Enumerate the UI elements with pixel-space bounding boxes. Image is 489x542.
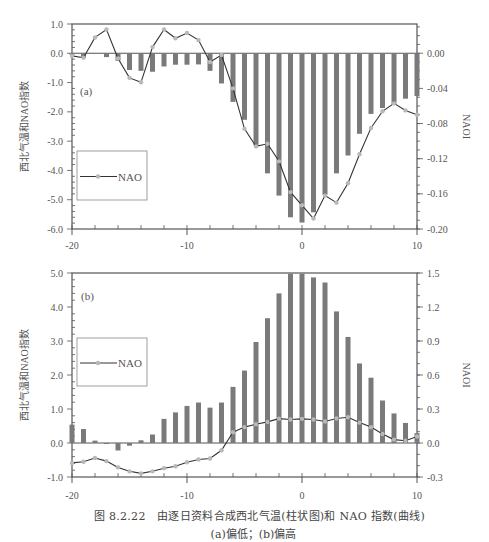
bar [162, 53, 167, 66]
y2-tick-label: 0.3 [427, 404, 440, 415]
x-tick-label: 0 [300, 490, 305, 501]
nao-marker [81, 460, 85, 464]
nao-marker [185, 460, 189, 464]
y2-tick-label: -0.20 [427, 224, 448, 235]
y-tick-label: -3.0 [47, 136, 63, 147]
bar [139, 53, 144, 71]
nao-marker [369, 126, 373, 130]
nao-marker [380, 109, 384, 113]
bar [300, 53, 305, 222]
panel-label: (b) [81, 290, 94, 303]
nao-marker [380, 432, 384, 436]
y2-tick-label: -0.3 [427, 472, 443, 483]
x-tick-label: 0 [300, 240, 305, 251]
panel-b: 5.04.03.02.01.00.0-1.01.51.20.90.60.30.0… [18, 268, 472, 502]
bar [219, 403, 224, 443]
bar [219, 53, 224, 83]
x-tick-label: -20 [65, 490, 78, 501]
nao-marker [323, 419, 327, 423]
y-tick-label: 2.0 [51, 370, 64, 381]
bar [70, 425, 75, 443]
nao-marker [208, 456, 212, 460]
nao-marker [334, 200, 338, 204]
bar [415, 53, 420, 96]
nao-marker [162, 466, 166, 470]
nao-marker [81, 55, 85, 59]
nao-marker [254, 144, 258, 148]
nao-marker [127, 76, 131, 80]
nao-marker [392, 101, 396, 105]
bar [116, 443, 121, 450]
nao-marker [242, 127, 246, 131]
figure-subcaption: (a)偏低；(b)偏高 [0, 525, 489, 541]
nao-marker [219, 53, 223, 57]
nao-marker [415, 434, 419, 438]
bar [380, 53, 385, 108]
bar [380, 401, 385, 444]
bar [357, 53, 362, 134]
bar [93, 53, 98, 54]
bar [323, 53, 328, 194]
y-tick-label: 4.0 [51, 302, 64, 313]
y2-tick-label: -0.08 [427, 118, 448, 129]
y2-tick-label: 1.5 [427, 268, 440, 279]
bar [334, 311, 339, 443]
nao-marker [369, 425, 373, 429]
bar [369, 378, 374, 443]
x-tick-label: -10 [180, 240, 193, 251]
nao-marker [185, 31, 189, 35]
nao-marker [139, 80, 143, 84]
x-tick-label: 10 [412, 490, 422, 501]
nao-marker [415, 113, 419, 117]
bar [127, 53, 132, 70]
nao-marker [173, 36, 177, 40]
bar [254, 342, 259, 443]
y2-tick-label: 0.6 [427, 370, 440, 381]
x-tick-label: -20 [65, 240, 78, 251]
bar [162, 419, 167, 443]
nao-marker [334, 416, 338, 420]
bar [104, 443, 109, 444]
nao-marker [70, 54, 74, 58]
nao-marker [403, 108, 407, 112]
nao-marker [288, 190, 292, 194]
y2-tick-label: 0.0 [427, 438, 440, 449]
y2-tick-label: 0.00 [427, 48, 445, 59]
y2-axis-title: NAOI [461, 363, 472, 388]
y2-tick-label: 1.2 [427, 302, 440, 313]
bar [357, 363, 362, 443]
nao-marker [288, 417, 292, 421]
y-tick-label: 0.0 [51, 48, 64, 59]
y-tick-label: -1.0 [47, 77, 63, 88]
bar [196, 403, 201, 443]
bar [185, 53, 190, 64]
bar [392, 53, 397, 103]
nao-marker [208, 60, 212, 64]
nao-marker [242, 425, 246, 429]
nao-marker [139, 471, 143, 475]
y2-axis-title: NAOI [461, 114, 472, 139]
panel-label: (a) [80, 85, 93, 98]
y2-tick-label: -0.16 [427, 188, 448, 199]
bar [265, 318, 270, 443]
nao-marker [162, 27, 166, 31]
bar [403, 53, 408, 98]
nao-marker [346, 415, 350, 419]
y2-tick-label: -0.12 [427, 153, 448, 164]
nao-marker [116, 56, 120, 60]
nao-marker [300, 417, 304, 421]
panel-a: 1.00.0-1.0-2.0-3.0-4.0-5.0-6.00.00-0.04-… [18, 19, 472, 252]
nao-marker [104, 459, 108, 463]
y-tick-label: -1.0 [47, 472, 63, 483]
y-tick-label: -6.0 [47, 224, 63, 235]
bar [369, 53, 374, 114]
bar [104, 53, 109, 57]
nao-marker [323, 193, 327, 197]
bar [311, 53, 316, 212]
nao-marker [116, 465, 120, 469]
y-tick-label: 1.0 [51, 404, 64, 415]
bar [127, 443, 132, 446]
nao-marker [150, 45, 154, 49]
bar [254, 53, 259, 145]
bar [265, 53, 270, 173]
